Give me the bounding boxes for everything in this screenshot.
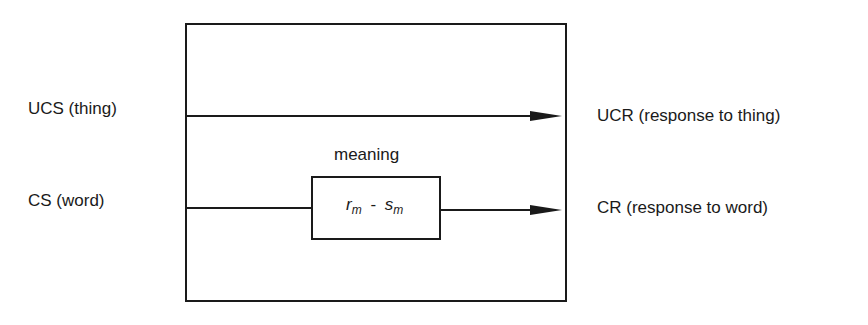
cr-label: CR (response to word) [597, 198, 768, 218]
diagram-canvas [0, 0, 868, 325]
s-subscript: m [393, 203, 403, 217]
ucs-label: UCS (thing) [28, 99, 117, 119]
cs-label: CS (word) [28, 191, 105, 211]
dash-symbol: - [370, 195, 376, 214]
mediator-formula: rm - sm [346, 195, 403, 217]
cr-arrowhead-icon [530, 205, 562, 215]
r-subscript: m [352, 203, 362, 217]
meaning-label: meaning [334, 145, 399, 165]
ucr-arrowhead-icon [530, 111, 562, 121]
ucr-label: UCR (response to thing) [597, 106, 780, 126]
